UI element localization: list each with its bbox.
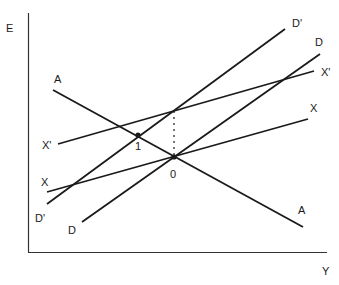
x-axis-label: Y [322, 265, 330, 277]
curve-d [82, 54, 320, 222]
y-axis-label: E [6, 22, 13, 34]
economics-diagram: E Y A A X X X' X' D D D' D' 0 1 [0, 0, 339, 285]
curve-d-prime [47, 29, 285, 204]
curve-a-label-right: A [298, 204, 306, 216]
curve-a-label-left: A [54, 73, 62, 85]
curve-d-label-left: D [68, 224, 76, 236]
point-0-label: 0 [170, 168, 176, 180]
curve-x-label-left: X [41, 176, 49, 188]
point-0 [171, 154, 176, 159]
point-1 [135, 132, 140, 137]
curve-x-prime-label-left: X' [42, 139, 51, 151]
point-1-label: 1 [135, 140, 141, 152]
curve-d-label-right: D [315, 36, 323, 48]
curve-x-prime [58, 71, 314, 144]
curve-x-label-right: X [310, 102, 318, 114]
curve-x-prime-label-right: X' [321, 66, 330, 78]
curve-d-prime-label-left: D' [35, 212, 45, 224]
curve-d-prime-label-right: D' [292, 17, 302, 29]
